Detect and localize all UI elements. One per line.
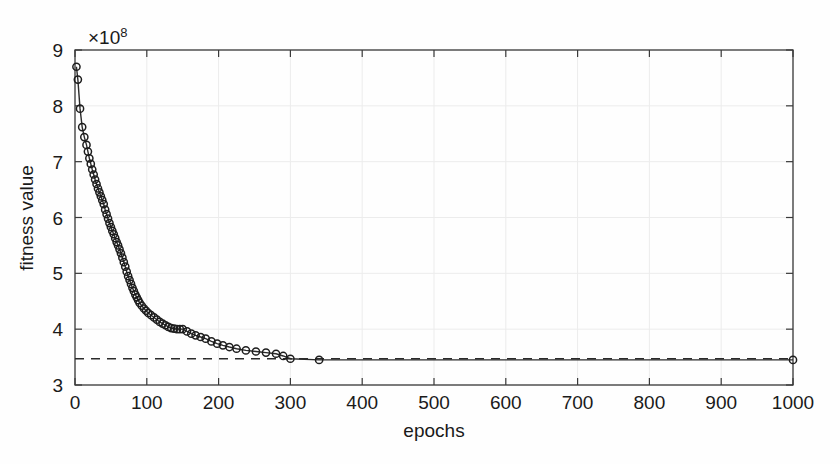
x-tick-label: 200: [203, 392, 235, 413]
x-tick-label: 300: [275, 392, 307, 413]
x-tick-label: 500: [418, 392, 450, 413]
y-tick-label: 4: [52, 319, 63, 340]
x-tick-label: 400: [346, 392, 378, 413]
x-tick-label: 800: [634, 392, 666, 413]
x-tick-label: 900: [705, 392, 737, 413]
x-tick-label: 600: [490, 392, 522, 413]
chart-canvas: 01002003004005006007008009001000 3456789…: [0, 0, 840, 464]
y-tick-label: 7: [52, 152, 63, 173]
x-tick-label: 1000: [772, 392, 814, 413]
y-tick-label: 3: [52, 375, 63, 396]
y-tick-label: 8: [52, 96, 63, 117]
y-tick-label: 5: [52, 263, 63, 284]
x-tick-label: 0: [70, 392, 81, 413]
y-axis-label: fitness value: [16, 165, 37, 271]
x-axis-label: epochs: [403, 420, 464, 441]
x-tick-label: 100: [131, 392, 163, 413]
fitness-convergence-chart: 01002003004005006007008009001000 3456789…: [0, 0, 840, 464]
y-tick-label: 9: [52, 40, 63, 61]
y-tick-label: 6: [52, 208, 63, 229]
x-tick-label: 700: [562, 392, 594, 413]
